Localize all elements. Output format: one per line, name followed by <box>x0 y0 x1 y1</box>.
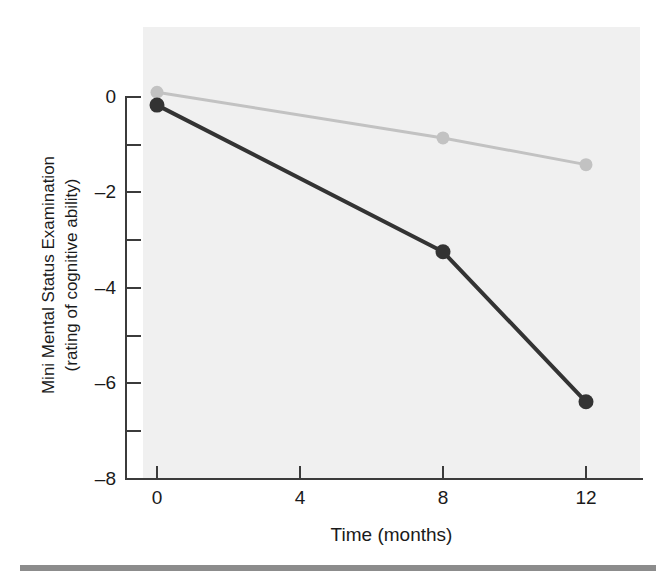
x-axis-line <box>125 478 643 480</box>
x-tick-label-4: 4 <box>270 487 330 509</box>
x-tick-8 <box>442 466 444 479</box>
plot-area-background <box>143 27 640 478</box>
y-tick--4 <box>125 287 141 289</box>
y-minor-tick--5 <box>125 335 141 337</box>
y-axis-title-line2: (rating of cognitive ability) <box>60 65 83 485</box>
x-tick-4 <box>299 466 301 479</box>
x-tick-label-8: 8 <box>413 487 473 509</box>
y-tick--6 <box>125 382 141 384</box>
x-tick-label-0: 0 <box>127 487 187 509</box>
figure: 0 –2 –4 –6 –8 0 4 8 12 Mini Mental Statu… <box>0 0 663 580</box>
y-tick-0 <box>125 96 141 98</box>
y-tick--8 <box>125 478 141 480</box>
x-axis-title: Time (months) <box>143 524 640 546</box>
y-tick--2 <box>125 191 141 193</box>
y-axis-title: Mini Mental Status Examination (rating o… <box>37 65 83 485</box>
y-axis-title-line1: Mini Mental Status Examination <box>39 156 58 394</box>
x-tick-12 <box>585 466 587 479</box>
x-tick-label-12: 12 <box>556 487 616 509</box>
clipped-caption-text <box>18 0 638 3</box>
bottom-rule-divider <box>20 565 656 571</box>
y-minor-tick--3 <box>125 239 141 241</box>
x-tick-0 <box>156 466 158 479</box>
y-minor-tick--7 <box>125 430 141 432</box>
y-minor-tick--1 <box>125 144 141 146</box>
